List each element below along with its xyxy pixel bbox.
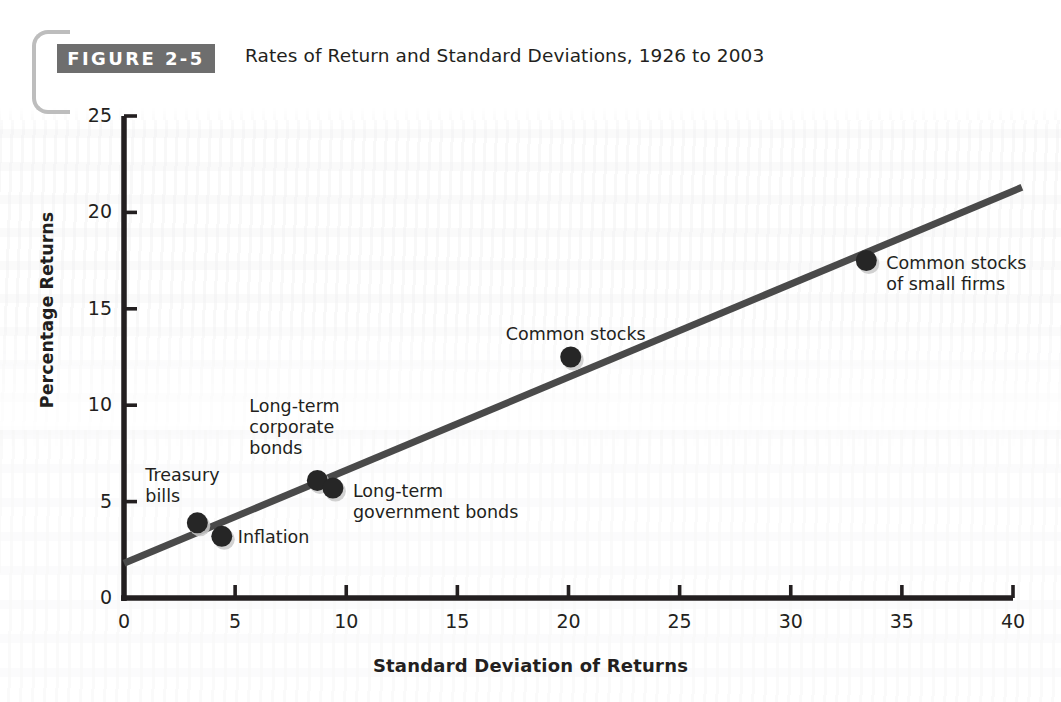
y-tick-label: 0: [72, 586, 112, 608]
data-point-marker: [211, 526, 232, 547]
data-point-label: Common stocks of small firms: [886, 253, 1026, 295]
data-point-label: Long-term government bonds: [353, 481, 518, 523]
data-point-label: Inflation: [238, 527, 310, 548]
x-tick-label: 0: [102, 610, 146, 632]
chart-canvas: [0, 0, 1061, 702]
data-point-marker: [560, 347, 581, 368]
x-axis-title: Standard Deviation of Returns: [0, 655, 1061, 676]
x-tick-label: 25: [658, 610, 702, 632]
data-point-marker: [322, 478, 343, 499]
x-tick-label: 35: [880, 610, 924, 632]
y-tick-label: 15: [72, 297, 112, 319]
data-point-label: Treasury bills: [145, 465, 219, 507]
chart-plot-area: Percentage Returns Standard Deviation of…: [0, 0, 1061, 702]
y-axis-title: Percentage Returns: [37, 200, 57, 420]
y-tick-label: 5: [72, 490, 112, 512]
x-tick-label: 15: [435, 610, 479, 632]
x-tick-label: 30: [769, 610, 813, 632]
y-tick-label: 20: [72, 200, 112, 222]
x-tick-label: 40: [991, 610, 1035, 632]
x-tick-label: 20: [547, 610, 591, 632]
trend-line: [124, 187, 1022, 563]
x-tick-label: 5: [213, 610, 257, 632]
data-point-label: Long-term corporate bonds: [249, 396, 339, 459]
x-tick-label: 10: [324, 610, 368, 632]
trend-line-segment: [124, 187, 1022, 563]
data-point-label: Common stocks: [506, 324, 646, 345]
data-point-marker: [187, 512, 208, 533]
y-tick-label: 10: [72, 393, 112, 415]
data-point-marker: [856, 250, 877, 271]
y-tick-label: 25: [72, 104, 112, 126]
